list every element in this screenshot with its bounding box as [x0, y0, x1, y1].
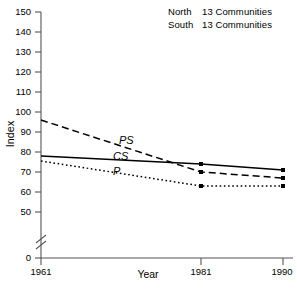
line-chart-plot — [0, 0, 297, 292]
series-annotation-cs: CS — [113, 150, 128, 162]
y-tick-label: 50 — [3, 206, 31, 217]
y-tick-label: 110 — [3, 86, 31, 97]
legend-row-south: South13 Communities — [168, 19, 272, 32]
data-point-ps-1981 — [199, 170, 203, 174]
x-tick-marks — [41, 258, 283, 265]
y-tick-label: 0 — [3, 252, 31, 263]
series-line-ps — [41, 120, 283, 178]
legend: North13 Communities South13 Communities — [168, 6, 272, 31]
y-axis-title: Index — [4, 112, 16, 156]
y-tick-marks — [35, 12, 41, 258]
y-tick-label: 130 — [3, 46, 31, 57]
chart-figure: 150 140 130 120 110 100 90 80 70 60 50 0… — [0, 0, 297, 292]
data-point-p-1981 — [199, 184, 203, 188]
y-tick-label: 60 — [3, 186, 31, 197]
data-point-ps-1990 — [281, 176, 285, 180]
series-line-p — [41, 161, 283, 186]
y-tick-label: 120 — [3, 66, 31, 77]
x-tick-label: 1990 — [262, 266, 297, 277]
legend-count-label: 13 Communities — [202, 19, 272, 32]
series-line-cs — [41, 156, 283, 170]
data-point-cs-1990 — [281, 168, 285, 172]
legend-side-label: South — [168, 19, 202, 32]
legend-count-label: 13 Communities — [202, 6, 272, 19]
series-annotation-ps: PS — [119, 134, 134, 146]
x-tick-label: 1961 — [21, 266, 61, 277]
series-annotation-p: P — [113, 165, 120, 177]
y-tick-label: 140 — [3, 26, 31, 37]
data-point-p-1990 — [281, 184, 285, 188]
x-tick-label: 1981 — [181, 266, 221, 277]
y-tick-label: 70 — [3, 166, 31, 177]
x-axis-title: Year — [118, 268, 178, 280]
legend-row-north: North13 Communities — [168, 6, 272, 19]
legend-side-label: North — [168, 6, 202, 19]
data-point-cs-1981 — [199, 162, 203, 166]
y-tick-label: 150 — [3, 6, 31, 17]
